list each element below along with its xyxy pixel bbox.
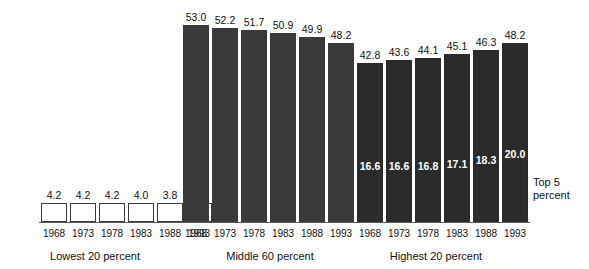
bar-lowest-1983 xyxy=(128,203,154,222)
value-label-middle-1993: 48.2 xyxy=(321,30,361,41)
bar-highest-1978 xyxy=(415,58,441,222)
bar-middle-1983 xyxy=(270,33,296,222)
top-5-percent-label: Top 5 xyxy=(533,176,560,189)
baseline-middle xyxy=(181,222,356,223)
bar-middle-1973 xyxy=(212,28,238,222)
bar-middle-1993 xyxy=(328,43,354,222)
bar-lowest-1978 xyxy=(99,203,125,222)
plot-area: 4.219684.219734.219784.019833.819883.619… xyxy=(0,0,589,269)
bar-highest-1988 xyxy=(473,50,499,222)
inner-value-label-1993: 20.0 xyxy=(498,149,532,160)
bar-middle-1988 xyxy=(299,37,325,222)
top-5-percent-bracket xyxy=(516,158,526,222)
bar-lowest-1988 xyxy=(157,203,183,222)
tick-label-highest-1993: 1993 xyxy=(496,228,534,239)
bar-highest-1968 xyxy=(357,63,383,222)
group-label-middle: Middle 60 percent xyxy=(190,250,350,262)
income-share-bar-chart: 4.219684.219734.219784.019833.819883.619… xyxy=(0,0,589,269)
bar-lowest-1968 xyxy=(41,203,67,222)
bar-middle-1968 xyxy=(183,25,209,222)
bar-middle-1978 xyxy=(241,30,267,222)
top-5-percent-label-line2: percent xyxy=(533,189,570,202)
bar-lowest-1973 xyxy=(70,203,96,222)
group-label-lowest: Lowest 20 percent xyxy=(15,250,175,262)
bar-highest-1973 xyxy=(386,60,412,222)
group-label-highest: Highest 20 percent xyxy=(356,250,516,262)
bar-highest-1983 xyxy=(444,54,470,222)
value-label-highest-1993: 48.2 xyxy=(495,30,535,41)
baseline-highest xyxy=(355,222,530,223)
